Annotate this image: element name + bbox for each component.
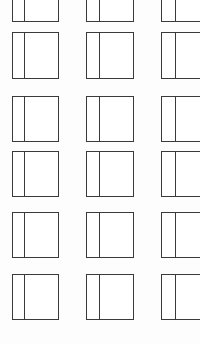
window-divider-r6c2 <box>99 275 100 319</box>
window-cell-r4c1 <box>12 151 59 197</box>
window-cell-r6c3 <box>161 274 200 320</box>
window-divider-r4c1 <box>24 152 25 196</box>
window-divider-r6c1 <box>24 275 25 319</box>
window-pane-right-r3c2 <box>99 97 133 141</box>
window-pane-left-r1c1 <box>13 0 24 21</box>
window-pane-right-r5c3 <box>175 213 200 257</box>
window-cell-r3c1 <box>12 96 59 142</box>
window-pane-left-r3c2 <box>87 97 99 141</box>
window-pane-right-r2c1 <box>24 33 58 78</box>
window-pane-left-r2c1 <box>13 33 24 78</box>
window-pane-left-r4c1 <box>13 152 24 196</box>
window-pane-right-r3c1 <box>24 97 58 141</box>
window-cell-r3c3 <box>161 96 200 142</box>
window-pane-left-r5c1 <box>13 213 24 257</box>
window-cell-r4c2 <box>86 151 134 197</box>
window-pane-right-r6c1 <box>24 275 58 319</box>
window-cell-r3c2 <box>86 96 134 142</box>
window-pane-left-r4c3 <box>162 152 175 196</box>
window-pane-left-r6c1 <box>13 275 24 319</box>
window-pane-right-r6c3 <box>175 275 200 319</box>
window-pane-left-r2c2 <box>87 33 99 78</box>
window-pane-right-r6c2 <box>99 275 133 319</box>
window-cell-r4c3 <box>161 151 200 197</box>
window-divider-r3c2 <box>99 97 100 141</box>
window-divider-r5c2 <box>99 213 100 257</box>
window-cell-r1c1 <box>12 0 59 22</box>
window-divider-r2c3 <box>175 33 176 78</box>
window-cell-r6c1 <box>12 274 59 320</box>
window-cell-r5c1 <box>12 212 59 258</box>
window-pane-left-r3c1 <box>13 97 24 141</box>
window-pane-right-r3c3 <box>175 97 200 141</box>
window-pane-right-r5c2 <box>99 213 133 257</box>
window-cell-r6c2 <box>86 274 134 320</box>
window-pane-right-r4c1 <box>24 152 58 196</box>
window-pane-right-r4c3 <box>175 152 200 196</box>
window-cell-r2c3 <box>161 32 200 79</box>
window-cell-r1c2 <box>86 0 134 22</box>
window-cell-r2c2 <box>86 32 134 79</box>
window-grid-canvas <box>0 0 200 344</box>
window-divider-r5c3 <box>175 213 176 257</box>
window-pane-right-r4c2 <box>99 152 133 196</box>
window-divider-r1c1 <box>24 0 25 21</box>
window-pane-right-r1c3 <box>175 0 200 21</box>
window-pane-right-r5c1 <box>24 213 58 257</box>
window-pane-left-r3c3 <box>162 97 175 141</box>
window-pane-right-r2c2 <box>99 33 133 78</box>
window-pane-right-r2c3 <box>175 33 200 78</box>
window-divider-r2c2 <box>99 33 100 78</box>
window-pane-right-r1c2 <box>99 0 133 21</box>
window-divider-r4c2 <box>99 152 100 196</box>
window-pane-right-r1c1 <box>24 0 58 21</box>
window-pane-left-r5c3 <box>162 213 175 257</box>
window-cell-r5c3 <box>161 212 200 258</box>
window-cell-r1c3 <box>161 0 200 22</box>
window-cell-r5c2 <box>86 212 134 258</box>
window-divider-r3c3 <box>175 97 176 141</box>
window-divider-r1c3 <box>175 0 176 21</box>
window-divider-r4c3 <box>175 152 176 196</box>
window-divider-r2c1 <box>24 33 25 78</box>
window-pane-left-r6c2 <box>87 275 99 319</box>
window-divider-r3c1 <box>24 97 25 141</box>
window-pane-left-r2c3 <box>162 33 175 78</box>
window-pane-left-r1c3 <box>162 0 175 21</box>
window-pane-left-r4c2 <box>87 152 99 196</box>
window-divider-r5c1 <box>24 213 25 257</box>
window-pane-left-r1c2 <box>87 0 99 21</box>
window-pane-left-r6c3 <box>162 275 175 319</box>
window-divider-r6c3 <box>175 275 176 319</box>
window-pane-left-r5c2 <box>87 213 99 257</box>
window-cell-r2c1 <box>12 32 59 79</box>
window-divider-r1c2 <box>99 0 100 21</box>
